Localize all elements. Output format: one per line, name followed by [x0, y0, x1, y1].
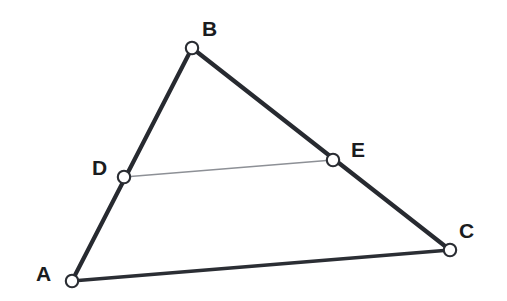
segment-bc	[192, 48, 450, 250]
geometry-diagram: A B C D E	[0, 0, 507, 301]
vertex-label-e: E	[351, 139, 365, 160]
vertex-label-d: D	[92, 157, 107, 178]
segment-ab	[72, 48, 192, 281]
vertex-label-c: C	[459, 220, 474, 241]
vertex-label-a: A	[36, 263, 51, 284]
segment-ac	[72, 250, 450, 281]
vertex-point-e[interactable]	[327, 154, 339, 166]
vertex-point-a[interactable]	[66, 275, 78, 287]
vertex-point-b[interactable]	[186, 42, 198, 54]
vertex-label-b: B	[202, 18, 217, 39]
geometry-canvas	[0, 0, 507, 301]
vertex-point-d[interactable]	[118, 171, 130, 183]
vertex-point-c[interactable]	[444, 244, 456, 256]
segment-de	[124, 160, 333, 177]
